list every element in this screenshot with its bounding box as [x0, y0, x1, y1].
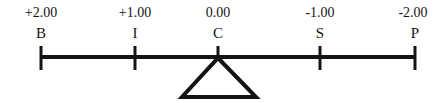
value-label-c: 0.00	[206, 6, 231, 20]
value-label-i: +1.00	[119, 6, 151, 20]
value-label-b: +2.00	[25, 6, 57, 20]
point-label-c: C	[213, 26, 223, 41]
point-label-p: P	[411, 26, 419, 41]
fulcrum-triangle	[182, 58, 256, 97]
point-label-b: B	[36, 26, 46, 41]
point-label-s: S	[316, 26, 324, 41]
value-label-p: -2.00	[398, 6, 427, 20]
point-label-i: I	[133, 26, 138, 41]
value-label-s: -1.00	[305, 6, 334, 20]
lever-diagram: +2.00 B +1.00 I 0.00 C -1.00 S -2.00 P	[0, 0, 445, 103]
